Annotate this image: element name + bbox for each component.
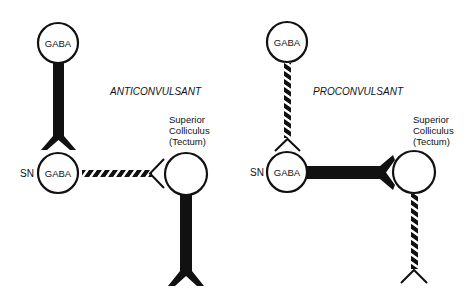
top-gaba-neuron: GABA xyxy=(267,22,307,62)
sn-gaba-neuron: SN GABA xyxy=(20,153,78,193)
panel-anticonvulsant: GABA ANTICONVULSANT SN GABA Superior Col… xyxy=(20,23,210,286)
solid-axon-sn-to-tectum xyxy=(307,155,395,190)
target-label-line: Colliculus xyxy=(169,125,210,136)
sn-label: SN xyxy=(20,168,34,179)
tectum-neuron: Superior Colliculus (Tectum) xyxy=(393,114,454,193)
panel-title: PROCONVULSANT xyxy=(313,86,404,97)
top-gaba-neuron: GABA xyxy=(38,23,78,63)
top-neuron-label: GABA xyxy=(45,38,72,49)
sn-neuron-label: GABA xyxy=(45,168,72,179)
hatched-axon-top-to-sn xyxy=(275,63,300,151)
tectum-neuron: Superior Colliculus (Tectum) xyxy=(165,114,210,195)
solid-axon-top-to-sn xyxy=(41,62,76,150)
hatched-axon-sn-to-tectum xyxy=(82,159,164,188)
target-label-line: Colliculus xyxy=(413,125,454,136)
sn-label: SN xyxy=(250,167,264,178)
target-label-line: (Tectum) xyxy=(413,136,450,147)
top-neuron-label: GABA xyxy=(274,37,301,48)
hatched-tectal-output xyxy=(401,194,427,283)
solid-tectal-output xyxy=(168,195,204,286)
gaba-circuit-diagram: GABA ANTICONVULSANT SN GABA Superior Col… xyxy=(0,0,466,298)
target-label-line: Superior xyxy=(413,114,449,125)
sn-gaba-neuron: SN GABA xyxy=(250,152,307,192)
target-label-line: Superior xyxy=(169,114,205,125)
panel-proconvulsant: GABA PROCONVULSANT SN GABA Superior Coll… xyxy=(250,22,454,283)
sn-neuron-label: GABA xyxy=(274,167,301,178)
target-label-line: (Tectum) xyxy=(169,136,206,147)
panel-title: ANTICONVULSANT xyxy=(109,86,202,97)
